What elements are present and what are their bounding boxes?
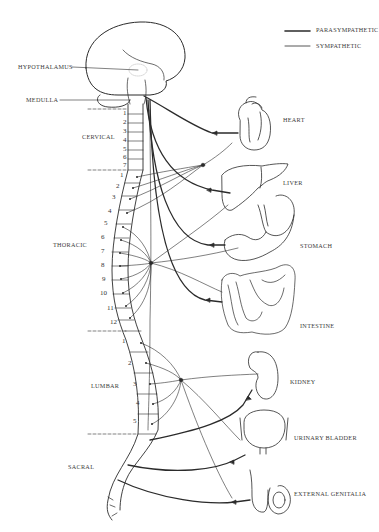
hypothalamus-leader (72, 67, 138, 70)
external-genitalia-illustration (250, 470, 290, 514)
urinary-bladder-illustration (240, 410, 288, 454)
vertebra-c3: 3 (123, 128, 127, 135)
vertebra-l3: 3 (133, 381, 137, 388)
vertebra-c4: 4 (123, 137, 127, 144)
organ-intestine-label: INTESTINE (300, 323, 334, 329)
medulla-label: MEDULLA (26, 97, 58, 103)
vertebra-t11: 11 (107, 305, 114, 312)
vertebra-t10: 10 (100, 290, 107, 297)
region-lumbar-label: LUMBAR (91, 383, 119, 389)
cerebellum-outline (97, 95, 130, 107)
vertebra-c1: 1 (123, 110, 127, 117)
vertebra-t5: 5 (104, 220, 108, 227)
vertebra-c6: 6 (123, 154, 127, 161)
organ-stomach-label: STOMACH (300, 243, 332, 249)
vertebra-t6: 6 (101, 234, 105, 241)
hypothalamus-label: HYPOTHALAMUS (18, 64, 73, 70)
coccyx (108, 497, 117, 516)
vertebra-t12: 12 (110, 319, 117, 326)
vertebra-l2: 2 (128, 360, 132, 367)
vertebra-t1: 1 (120, 172, 124, 179)
cervical-segments (128, 114, 143, 170)
legend-parasympathetic-label: PARASYMPATHETIC (316, 27, 379, 33)
organ-liver-label: LIVER (283, 180, 303, 186)
organ-urinary-bladder-label: URINARY BLADDER (294, 435, 357, 441)
legend-sympathetic-label: SYMPATHETIC (316, 43, 361, 49)
stomach-illustration (224, 195, 294, 261)
region-thoracic-label: THORACIC (53, 242, 87, 248)
vertebra-t2: 2 (116, 183, 120, 190)
vertebra-l4: 4 (136, 400, 140, 407)
vertebra-l1: 1 (122, 338, 126, 345)
heart-illustration (238, 97, 270, 150)
vertebra-t8: 8 (101, 262, 105, 269)
vertebra-t7: 7 (101, 248, 105, 255)
vertebra-t9: 9 (102, 276, 106, 283)
intestine-illustration (221, 265, 295, 334)
vertebra-c5: 5 (123, 146, 127, 153)
kidney-illustration (248, 352, 278, 399)
vertebra-l5: 5 (133, 418, 137, 425)
organ-kidney-label: KIDNEY (290, 379, 316, 385)
region-sacral-label: SACRAL (68, 464, 94, 470)
vertebra-c7: 7 (123, 162, 127, 169)
organ-external-genitalia-label: EXTERNAL GENITALIA (294, 491, 366, 497)
vertebra-t3: 3 (112, 194, 116, 201)
vertebra-c2: 2 (123, 119, 127, 126)
liver-illustration (222, 164, 288, 211)
cerebrum-outline (86, 22, 185, 95)
vertebra-t4: 4 (108, 208, 112, 215)
sympathetic-pathways (120, 110, 258, 498)
parasympathetic-ganglia (206, 131, 251, 504)
region-cervical-label: CERVICAL (82, 134, 115, 140)
organ-heart-label: HEART (283, 117, 305, 123)
parasympathetic-pathways (118, 96, 252, 503)
